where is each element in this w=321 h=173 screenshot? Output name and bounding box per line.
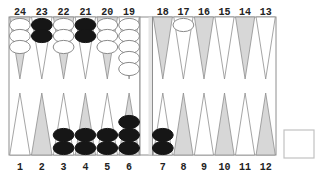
point-16-label: 16 bbox=[198, 7, 210, 18]
bar-inner-shade bbox=[149, 18, 153, 155]
checker-black[interactable] bbox=[97, 128, 118, 141]
checker-black[interactable] bbox=[152, 141, 173, 154]
point-20-label: 20 bbox=[101, 7, 113, 18]
point-9-label: 9 bbox=[201, 162, 207, 173]
checker-white[interactable] bbox=[53, 40, 74, 53]
point-2-label: 2 bbox=[39, 162, 45, 173]
point-8-label: 8 bbox=[180, 162, 186, 173]
checker-black[interactable] bbox=[119, 115, 140, 128]
point-5-label: 5 bbox=[104, 162, 110, 173]
checker-black[interactable] bbox=[31, 29, 52, 42]
checker-black[interactable] bbox=[75, 141, 96, 154]
point-13-label: 13 bbox=[260, 7, 272, 18]
point-19-label: 19 bbox=[123, 7, 135, 18]
point-14-label: 14 bbox=[239, 7, 251, 18]
checker-black[interactable] bbox=[152, 128, 173, 141]
point-7-label: 7 bbox=[160, 162, 166, 173]
point-10-label: 10 bbox=[218, 162, 230, 173]
point-3-label: 3 bbox=[61, 162, 67, 173]
checker-black[interactable] bbox=[53, 128, 74, 141]
point-6-label: 6 bbox=[126, 162, 132, 173]
doubling-cube-box[interactable] bbox=[284, 130, 314, 158]
point-15-label: 15 bbox=[218, 7, 230, 18]
point-12-label: 12 bbox=[260, 162, 272, 173]
checker-white[interactable] bbox=[97, 40, 118, 53]
checker-black[interactable] bbox=[75, 29, 96, 42]
point-4-label: 4 bbox=[82, 162, 88, 173]
point-18-label: 18 bbox=[157, 7, 169, 18]
backgammon-board: 242322212019181716151413123456789101112 bbox=[0, 0, 321, 173]
backgammon-diagram: 242322212019181716151413123456789101112 bbox=[0, 0, 321, 173]
point-17-label: 17 bbox=[177, 7, 189, 18]
checker-black[interactable] bbox=[75, 128, 96, 141]
point-1-label: 1 bbox=[17, 162, 23, 173]
point-11-label: 11 bbox=[239, 162, 251, 173]
point-24-label: 24 bbox=[14, 7, 26, 18]
checker-white[interactable] bbox=[10, 40, 31, 53]
checker-white[interactable] bbox=[173, 18, 194, 31]
checker-black[interactable] bbox=[119, 141, 140, 154]
point-22-label: 22 bbox=[58, 7, 70, 18]
point-23-label: 23 bbox=[36, 7, 48, 18]
checker-black[interactable] bbox=[119, 128, 140, 141]
checker-black[interactable] bbox=[97, 141, 118, 154]
point-21-label: 21 bbox=[79, 7, 91, 18]
checker-white[interactable] bbox=[119, 62, 140, 75]
checker-black[interactable] bbox=[53, 141, 74, 154]
